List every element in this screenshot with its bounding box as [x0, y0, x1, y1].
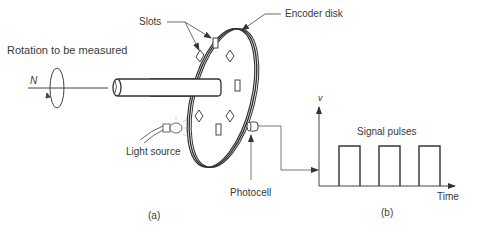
light-source-icon — [140, 117, 188, 143]
signal-pulses — [339, 146, 440, 186]
photocell-label: Photocell — [230, 187, 271, 199]
slots-label: Slots — [139, 16, 161, 28]
panel-a-label: (a) — [148, 210, 160, 222]
light-source-label: Light source — [126, 146, 180, 158]
rotation-label: Rotation to be measured — [7, 44, 127, 56]
photocell-icon — [247, 122, 258, 131]
signal-pulses-label: Signal pulses — [357, 126, 416, 138]
time-axis-label: Time — [437, 191, 459, 203]
panel-b-label: (b) — [381, 207, 393, 219]
rotation-arrow-icon — [28, 68, 108, 108]
v-axis-label: v — [318, 92, 323, 104]
encoder-disk-label: Encoder disk — [285, 8, 343, 20]
encoder-disk — [175, 22, 272, 174]
n-symbol: N — [30, 75, 37, 87]
